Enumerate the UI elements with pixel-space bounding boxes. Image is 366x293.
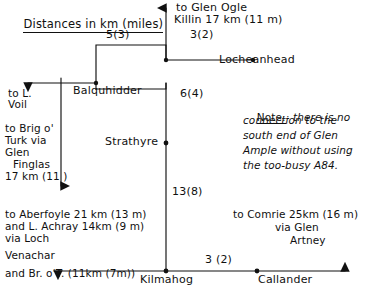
destination-glen-ogle-line2: Killin 17 km (11 m) <box>174 14 283 26</box>
destination-aberfoyle-line4: Venachar <box>5 250 55 262</box>
edge-label-strathyre-kilmahog: 13(8) <box>172 186 203 198</box>
destination-aberfoyle-line2: and L. Achray 14km (9 m) <box>5 221 144 233</box>
place-label-locheanhead: Locheanhead <box>219 54 295 66</box>
place-label-balquhidder: Balquhidder <box>73 85 142 97</box>
diagram-title-text: Distances in km (miles) <box>23 17 163 33</box>
destination-brig-o-turk-line4: Finglas <box>13 159 50 171</box>
place-label-strathyre: Strathyre <box>105 136 158 148</box>
destination-comrie-line1: to Comrie 25km (16 m) <box>233 209 358 221</box>
edge-label-kilmahog-callander: 3 (2) <box>205 254 232 266</box>
destination-brig-o-turk-line3: Glen <box>5 147 30 159</box>
destination-aberfoyle-line1: to Aberfoyle 21 km (13 m) <box>5 209 147 221</box>
node-strathyre <box>164 141 169 146</box>
diagram-title: Distances in km (miles) <box>8 5 163 44</box>
node-lochearnhead-junction <box>164 58 168 62</box>
destination-comrie-line2: via Glen <box>275 222 319 234</box>
edge-label-balquhidder-strathyre: 6(4) <box>180 88 203 100</box>
destination-comrie-line3: Artney <box>290 235 326 247</box>
edge-label-lochearnhead-locheanhead: 3(2) <box>190 29 213 41</box>
road-balquhidder-to-lochearnhead <box>96 45 166 83</box>
hand-drawn-distance-map: Distances in km (miles) to Glen Ogle Kil… <box>0 0 366 293</box>
note-line5: the too-busy A84. <box>243 160 338 172</box>
destination-brig-o-turk-line1: to Brig o' <box>5 123 54 135</box>
edge-label-balquhidder-lochearnhead: 5(3) <box>106 29 129 41</box>
destination-brig-o-turk-line5: 17 km (11 ) <box>5 171 67 183</box>
place-label-callander: Callander <box>258 274 312 286</box>
destination-aberfoyle-line5: and Br. o'T. (11km (7m)) <box>5 268 135 280</box>
destination-loch-voil-line2: Voil <box>8 99 27 111</box>
note-line2: connection to the <box>243 115 337 127</box>
destination-aberfoyle-line3: via Loch <box>5 233 49 245</box>
destination-brig-o-turk-line2: Turk via <box>5 135 47 147</box>
note-line3: south end of Glen <box>243 130 338 142</box>
place-label-kilmahog: Kilmahog <box>140 274 193 286</box>
note-line4: Ample without using <box>243 145 353 157</box>
